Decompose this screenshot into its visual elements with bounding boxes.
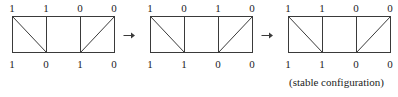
top-label-row-2: 1 0 1 0 xyxy=(138,0,259,14)
top-label-3-1: 1 xyxy=(315,1,329,15)
grid-3 xyxy=(276,14,397,55)
bottom-label-2-0: 1 xyxy=(143,57,157,71)
top-label-2-3: 0 xyxy=(245,1,259,15)
bottom-label-row-3: 1 1 0 0 xyxy=(276,55,397,69)
cell-diagonal-1-2 xyxy=(81,17,115,53)
cell-diagonal-3-0 xyxy=(289,17,323,53)
top-label-3-0: 1 xyxy=(281,1,295,15)
bottom-label-2-3: 0 xyxy=(245,57,259,71)
bottom-label-2-1: 1 xyxy=(177,57,191,71)
bottom-label-row-2: 1 1 0 0 xyxy=(138,55,259,69)
cell-diagonal-3-2 xyxy=(357,17,391,53)
arrow-2 xyxy=(259,0,276,97)
caption-stable-configuration: (stable configuration) xyxy=(276,75,397,89)
diagram-configuration-3: 1 1 0 0 1 xyxy=(276,0,397,89)
top-label-1-3: 0 xyxy=(107,1,121,15)
bottom-label-3-3: 0 xyxy=(383,57,397,71)
bottom-label-3-1: 1 xyxy=(315,57,329,71)
cell-diagonal-1-0 xyxy=(13,17,47,53)
cell-diagonal-2-0 xyxy=(151,17,185,53)
diagram-configuration-1: 1 1 0 0 1 xyxy=(0,0,121,75)
top-label-1-2: 0 xyxy=(73,1,87,15)
grid-2 xyxy=(138,14,259,55)
bottom-label-row-1: 1 0 1 0 xyxy=(0,55,121,69)
top-label-2-2: 1 xyxy=(211,1,225,15)
top-label-row-1: 1 1 0 0 xyxy=(0,0,121,14)
bottom-label-1-2: 1 xyxy=(73,57,87,71)
top-label-1-1: 1 xyxy=(39,1,53,15)
bottom-label-3-0: 1 xyxy=(281,57,295,71)
bottom-label-2-2: 0 xyxy=(211,57,225,71)
top-label-3-3: 0 xyxy=(383,1,397,15)
top-label-2-0: 1 xyxy=(143,1,157,15)
bottom-label-3-2: 0 xyxy=(349,57,363,71)
arrow-1 xyxy=(121,0,138,97)
bottom-label-1-0: 1 xyxy=(5,57,19,71)
figure-container: 1 1 0 0 1 xyxy=(0,0,398,97)
right-arrow-icon xyxy=(123,30,137,41)
grid-1 xyxy=(0,14,121,55)
diagram-sequence: 1 1 0 0 1 xyxy=(0,0,398,97)
top-label-1-0: 1 xyxy=(5,1,19,15)
bottom-label-1-1: 0 xyxy=(39,57,53,71)
top-label-3-2: 0 xyxy=(349,1,363,15)
diagram-configuration-2: 1 0 1 0 1 xyxy=(138,0,259,75)
bottom-label-1-3: 0 xyxy=(107,57,121,71)
cell-diagonal-2-2 xyxy=(219,17,253,53)
top-label-2-1: 0 xyxy=(177,1,191,15)
right-arrow-icon xyxy=(261,30,275,41)
top-label-row-3: 1 1 0 0 xyxy=(276,0,397,14)
